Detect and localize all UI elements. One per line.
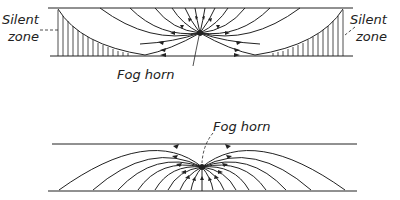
fog-horn-refraction-diagram: Silent zone Silent zone Fog horn [0,0,400,200]
bottom-fog-horn-source [200,165,205,170]
top-fog-horn-leader [193,36,199,66]
top-fog-horn-source [198,31,203,36]
left-silent-zone-label-1: Silent [2,12,40,27]
top-fog-horn-label: Fog horn [117,67,175,82]
bottom-fog-horn-leader [202,133,213,163]
bottom-sound-rays [59,151,345,191]
right-silent-zone-leader [345,27,355,35]
right-silent-zone-label-1: Silent [350,12,388,27]
left-silent-zone-label-2: zone [7,29,39,44]
right-silent-zone-label-2: zone [355,29,387,44]
right-silent-zone-boundary-ray [255,9,343,55]
top-diagram [40,8,355,66]
left-silent-zone-boundary-ray [58,9,145,55]
bottom-fog-horn-label: Fog horn [213,119,271,134]
bottom-diagram [48,133,357,191]
